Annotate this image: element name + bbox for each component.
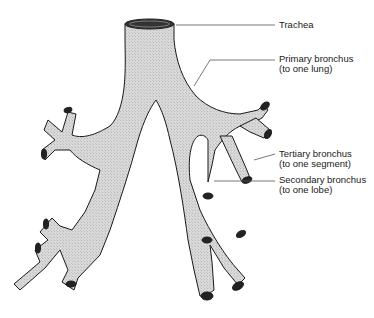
label-secondary-bronchus: Secondary bronchus (to one lobe) bbox=[279, 175, 366, 195]
trachea-shape bbox=[14, 24, 268, 296]
label-secondary-bronchus-sub: (to one lobe) bbox=[279, 185, 366, 195]
label-tertiary-bronchus: Tertiary bronchus (to one segment) bbox=[279, 149, 352, 169]
label-trachea: Trachea bbox=[279, 20, 314, 30]
leader-primary-bronchus bbox=[194, 60, 275, 86]
trachea-lumen-icon bbox=[125, 19, 174, 29]
label-tertiary-bronchus-sub: (to one segment) bbox=[279, 159, 352, 169]
leader-tertiary-bronchus bbox=[254, 154, 275, 160]
airway-tree bbox=[14, 24, 270, 296]
label-trachea-text: Trachea bbox=[279, 20, 314, 30]
label-primary-bronchus-sub: (to one lung) bbox=[279, 64, 353, 74]
tertiary-branch-shape bbox=[220, 136, 250, 182]
label-primary-bronchus: Primary bronchus (to one lung) bbox=[279, 54, 353, 74]
